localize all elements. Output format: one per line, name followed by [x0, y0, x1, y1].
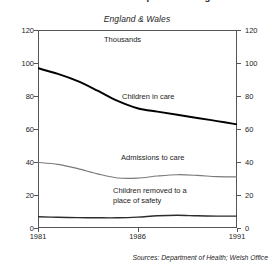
y-tick-mark [34, 63, 38, 64]
y-tick-mark [237, 162, 241, 163]
y-tick-label: 100 [245, 59, 274, 68]
x-tick-mark [138, 228, 139, 232]
x-tick-label: 1981 [30, 232, 47, 241]
chart-title: Children in care and on protection regis… [0, 0, 274, 2]
series-label-children-in-care: Children in care [122, 92, 175, 102]
y-axis-right: 120100806040200 [245, 30, 274, 228]
y-tick-label: 80 [245, 92, 274, 101]
y-tick-label: 100 [8, 59, 34, 68]
chart-figure: Children in care and on protection regis… [0, 0, 274, 275]
y-tick-mark [237, 195, 241, 196]
series-label-line-1: Children removed to a [113, 186, 187, 195]
y-tick-mark [237, 129, 241, 130]
y-tick-mark [237, 96, 241, 97]
y-tick-mark [34, 129, 38, 130]
y-tick-mark [34, 195, 38, 196]
y-tick-mark [237, 63, 241, 64]
x-axis: 198119861991 [0, 232, 274, 244]
x-tick-mark [237, 228, 238, 232]
units-label: Thousands [104, 35, 141, 45]
y-tick-mark [34, 162, 38, 163]
chart-subtitle: England & Wales [0, 14, 274, 24]
y-tick-mark [34, 30, 38, 31]
y-tick-label: 80 [8, 92, 34, 101]
y-tick-label: 120 [245, 26, 274, 35]
y-tick-label: 60 [245, 125, 274, 134]
y-tick-mark [34, 96, 38, 97]
y-tick-label: 20 [245, 191, 274, 200]
series-line-children-removed-to-a-place-of-safety [38, 215, 237, 218]
y-axis-left: 120100806040200 [4, 30, 34, 228]
x-tick-label: 1986 [129, 232, 146, 241]
y-tick-label: 60 [8, 125, 34, 134]
y-tick-label: 120 [8, 26, 34, 35]
x-tick-mark [38, 228, 39, 232]
x-tick-label: 1991 [229, 232, 246, 241]
series-label-line-2: place of safety [113, 196, 161, 205]
y-tick-mark [237, 30, 241, 31]
y-tick-label: 20 [8, 191, 34, 200]
source-note: Sources: Department of Health; Welsh Off… [133, 254, 269, 261]
y-tick-label: 40 [8, 158, 34, 167]
series-line-admissions-to-care [38, 163, 237, 179]
series-label-place-of-safety: Children removed to a place of safety [113, 186, 187, 206]
y-tick-label: 40 [245, 158, 274, 167]
series-label-admissions-to-care: Admissions to care [121, 153, 184, 163]
